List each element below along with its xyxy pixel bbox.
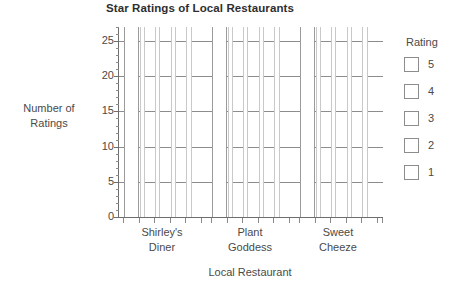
y-axis-minor-tick xyxy=(116,90,119,91)
bar-plant-goddess-rating-1 xyxy=(274,27,279,217)
y-axis-minor-tick xyxy=(116,189,119,190)
legend-swatch-rating-5 xyxy=(404,57,419,72)
y-axis-minor-tick xyxy=(116,83,119,84)
y-axis-title: Number of Ratings xyxy=(8,101,90,131)
bar-sweet-cheeze-rating-2 xyxy=(347,27,352,217)
y-axis-major-tick xyxy=(114,41,119,42)
y-axis-tick-label: 15 xyxy=(88,104,114,116)
x-axis-tick xyxy=(258,218,259,223)
x-axis-tick xyxy=(377,218,378,223)
y-axis-title-line-1: Number of xyxy=(8,101,90,116)
bar-sweet-cheeze-rating-3 xyxy=(331,27,336,217)
y-axis-major-tick xyxy=(114,111,119,112)
y-axis-tick-label: 20 xyxy=(88,69,114,81)
plot-inner xyxy=(119,27,383,217)
y-axis-tick-label: 10 xyxy=(88,140,114,152)
y-axis-minor-tick xyxy=(116,196,119,197)
y-axis-minor-tick xyxy=(116,140,119,141)
y-axis-minor-tick xyxy=(116,118,119,119)
x-axis-ticks xyxy=(118,218,383,224)
x-axis-category-label: PlantGoddess xyxy=(206,225,294,255)
x-axis-tick xyxy=(227,218,228,223)
x-axis-tick xyxy=(185,218,186,223)
y-axis-minor-tick xyxy=(116,210,119,211)
y-axis-minor-tick xyxy=(116,168,119,169)
legend-item-rating-4[interactable]: 4 xyxy=(404,82,464,100)
y-axis-major-tick xyxy=(114,147,119,148)
y-axis-minor-tick xyxy=(116,97,119,98)
legend-item-label: 3 xyxy=(428,111,434,126)
y-axis-minor-tick xyxy=(116,126,119,127)
x-axis-tick xyxy=(315,218,316,223)
bar-sweet-cheeze-rating-1 xyxy=(362,27,367,217)
y-axis-tick-labels: 0510152025 xyxy=(86,27,114,217)
legend-items: 54321 xyxy=(404,55,464,181)
y-axis-major-tick xyxy=(114,76,119,77)
y-axis-minor-tick xyxy=(116,161,119,162)
x-axis-tick xyxy=(170,218,171,223)
y-axis-major-tick xyxy=(114,182,119,183)
plot-area xyxy=(118,27,383,218)
chart-container: Star Ratings of Local Restaurants Number… xyxy=(0,0,467,299)
x-axis-tick xyxy=(154,218,155,223)
x-axis-tick xyxy=(211,218,212,223)
y-axis-minor-tick xyxy=(116,55,119,56)
y-axis-minor-tick xyxy=(116,34,119,35)
x-axis-category-label: Shirley'sDiner xyxy=(118,225,206,255)
bar-shirley-s-diner-rating-5 xyxy=(124,27,140,217)
x-axis-category-label-line-1: Plant xyxy=(206,225,294,240)
chart-title: Star Ratings of Local Restaurants xyxy=(0,2,400,14)
bar-plant-goddess-rating-2 xyxy=(259,27,264,217)
legend-item-rating-5[interactable]: 5 xyxy=(404,55,464,73)
legend-swatch-rating-4 xyxy=(404,84,419,99)
y-axis-minor-tick xyxy=(116,133,119,134)
x-axis-tick xyxy=(289,218,290,223)
legend: Rating 54321 xyxy=(404,36,464,190)
bar-plant-goddess-rating-4 xyxy=(228,27,233,217)
x-axis-tick xyxy=(346,218,347,223)
x-axis-tick xyxy=(382,218,383,223)
y-axis-minor-tick xyxy=(116,104,119,105)
y-axis-minor-tick xyxy=(116,69,119,70)
y-axis-minor-tick xyxy=(116,48,119,49)
legend-item-label: 2 xyxy=(428,138,434,153)
x-axis-tick xyxy=(201,218,202,223)
x-axis-category-label-line-1: Shirley's xyxy=(118,225,206,240)
x-axis-tick xyxy=(330,218,331,223)
x-axis-category-label-line-2: Goddess xyxy=(206,240,294,255)
y-axis-tick-label: 25 xyxy=(88,34,114,46)
y-axis-tick-label: 0 xyxy=(88,210,114,222)
x-axis-tick xyxy=(139,218,140,223)
x-axis-category-label-line-2: Cheeze xyxy=(294,240,382,255)
y-axis-minor-tick xyxy=(116,62,119,63)
bar-shirley-s-diner-rating-3 xyxy=(155,27,160,217)
legend-swatch-rating-3 xyxy=(404,111,419,126)
y-axis-tick-label: 5 xyxy=(88,175,114,187)
x-axis-category-label-line-1: Sweet xyxy=(294,225,382,240)
x-axis-tick xyxy=(361,218,362,223)
bar-sweet-cheeze-rating-5 xyxy=(300,27,316,217)
y-axis-minor-tick xyxy=(116,154,119,155)
legend-item-rating-3[interactable]: 3 xyxy=(404,109,464,127)
bar-shirley-s-diner-rating-4 xyxy=(140,27,145,217)
bar-shirley-s-diner-rating-1 xyxy=(186,27,191,217)
y-axis-title-line-2: Ratings xyxy=(8,116,90,131)
x-axis-category-label: SweetCheeze xyxy=(294,225,382,255)
legend-item-label: 1 xyxy=(428,165,434,180)
legend-item-rating-1[interactable]: 1 xyxy=(404,163,464,181)
legend-item-rating-2[interactable]: 2 xyxy=(404,136,464,154)
bar-sweet-cheeze-rating-4 xyxy=(316,27,321,217)
legend-swatch-rating-2 xyxy=(404,138,419,153)
y-axis-minor-tick xyxy=(116,27,119,28)
y-axis-minor-tick xyxy=(116,203,119,204)
y-axis-minor-tick xyxy=(116,175,119,176)
legend-item-label: 4 xyxy=(428,84,434,99)
legend-item-label: 5 xyxy=(428,57,434,72)
x-axis-tick xyxy=(123,218,124,223)
legend-swatch-rating-1 xyxy=(404,165,419,180)
x-axis-tick xyxy=(273,218,274,223)
x-axis-category-labels: Shirley'sDinerPlantGoddessSweetCheeze xyxy=(118,225,382,265)
bar-plant-goddess-rating-5 xyxy=(212,27,228,217)
x-axis-tick xyxy=(242,218,243,223)
x-axis-title: Local Restaurant xyxy=(118,266,382,278)
